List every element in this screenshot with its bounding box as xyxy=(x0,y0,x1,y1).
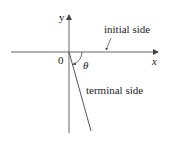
initial-side-label: initial side xyxy=(104,24,150,35)
origin-label: 0 xyxy=(58,55,64,66)
angle-diagram: y x 0 θ initial side terminal side xyxy=(0,0,170,141)
y-axis-label: y xyxy=(59,12,65,23)
terminal-side-label: terminal side xyxy=(86,85,143,96)
angle-arc xyxy=(73,52,82,65)
x-axis-label: x xyxy=(152,56,157,67)
angle-label: θ xyxy=(83,60,88,71)
initial-side-pointer xyxy=(106,38,111,50)
